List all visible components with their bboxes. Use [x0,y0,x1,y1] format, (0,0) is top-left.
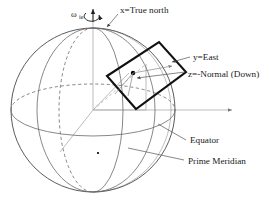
omega-ie-subscript: ie [79,13,84,20]
ned-axis-stub-a [115,73,133,94]
ned-east-axis [133,66,172,73]
leader-x-true-north [107,14,118,27]
rotation-curved-arrow-icon [84,13,99,21]
secondary-meridian-left [37,28,93,192]
prime-meridian-label: Prime Meridian [188,156,246,166]
y-east-label: y=East [193,52,219,62]
earth-ned-frame-diagram: ω ie x=True north y=East z=-Normal (Down… [0,0,276,209]
leader-equator [158,124,186,140]
omega-ie-label: ω [71,9,77,19]
z-normal-down-label: z=-Normal (Down) [188,69,259,79]
x-true-north-label: x=True north [120,5,169,15]
ecef-y-axis-line [60,110,93,152]
earth-rotation-arrow-group [84,9,99,22]
figure-root: ω ie x=True north y=East z=-Normal (Down… [0,0,276,209]
prime-meridian-back [59,28,93,192]
equator-label: Equator [190,135,219,145]
equator-front-arc [11,110,175,136]
radius-vector [93,73,129,110]
surface-marker-dot [97,152,99,154]
